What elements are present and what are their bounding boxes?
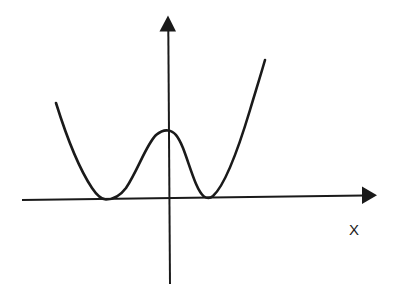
x-axis [22, 196, 364, 201]
x-axis-arrow-icon [362, 187, 377, 205]
y-axis-arrow-icon [160, 16, 177, 32]
double-well-diagram [0, 0, 393, 296]
x-axis-label: X [349, 222, 359, 237]
y-axis [168, 29, 170, 284]
curve-line [56, 60, 265, 200]
